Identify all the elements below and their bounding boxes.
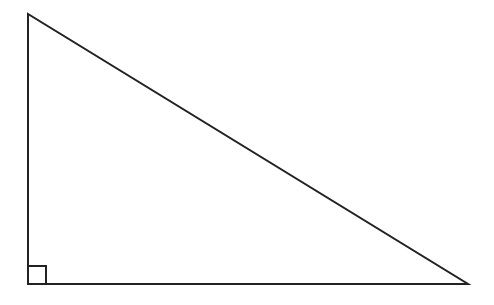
right-angle-marker — [28, 266, 46, 284]
triangle — [28, 14, 468, 284]
right-triangle-diagram — [0, 0, 494, 305]
